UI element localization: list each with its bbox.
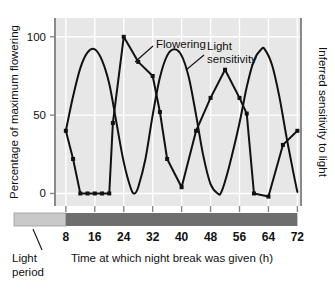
flowering-annotation: Flowering (156, 38, 206, 50)
light-sensitivity-annotation-line2: sensitivity (207, 53, 257, 65)
x-tick-label: 56 (233, 230, 247, 244)
x-tick-label: 16 (88, 230, 102, 244)
chart-svg: 050100 81624324048566472 Flowering Light… (0, 0, 335, 289)
x-tick-label: 72 (291, 230, 305, 244)
x-tick-label: 24 (117, 230, 131, 244)
light-period-annotation-line2: period (12, 266, 44, 278)
x-tick-label: 8 (63, 230, 70, 244)
y-axis-right-title: Inferred sensitivity to light (317, 47, 329, 178)
y-tick-label: 100 (27, 31, 46, 43)
x-tick-label: 40 (175, 230, 189, 244)
light-period-annotation-line1: Light (12, 252, 38, 264)
dark-period-bar-segment (66, 213, 298, 226)
light-period-leader-line (33, 229, 42, 250)
x-tick-label: 48 (204, 230, 218, 244)
x-tick-label: 64 (262, 230, 276, 244)
y-tick-label: 50 (33, 109, 46, 121)
y-tick-label: 0 (40, 187, 46, 199)
x-tick-label: 32 (146, 230, 160, 244)
light-sensitivity-annotation-line1: Light (207, 40, 233, 52)
figure-container: 050100 81624324048566472 Flowering Light… (0, 0, 335, 289)
light-period-bar-segment (14, 213, 66, 226)
y-axis-ticks: 050100 (27, 31, 55, 200)
y-axis-left-title: Percentage of maximum flowering (8, 25, 20, 199)
x-axis-title: Time at which night break was given (h) (71, 252, 273, 264)
